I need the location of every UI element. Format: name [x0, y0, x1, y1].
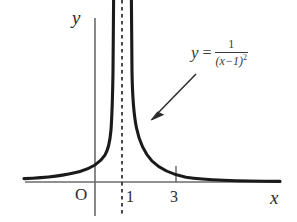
equation-annotation: y = 1 (x−1)2 [191, 38, 248, 67]
equation-left-hand-side: y [191, 43, 199, 63]
denominator-exponent: 2 [243, 53, 247, 62]
x-tick-label-3: 3 [170, 189, 178, 205]
equation-fraction: 1 (x−1)2 [215, 38, 248, 67]
origin-label: O [75, 186, 87, 203]
x-axis-label: x [270, 188, 278, 207]
fraction-numerator: 1 [225, 38, 237, 51]
annotation-arrow-line [157, 74, 197, 115]
fraction-denominator: (x−1)2 [215, 54, 248, 68]
y-axis-label: y [72, 8, 80, 27]
function-graph-figure: y x O 1 3 y = 1 (x−1)2 [0, 0, 297, 222]
equation-equals-sign: = [203, 44, 212, 62]
denominator-base: (x−1) [216, 54, 243, 68]
plot-canvas [0, 0, 297, 222]
curve-left-branch [24, 0, 114, 179]
annotation-arrow-head [151, 112, 163, 120]
curve-right-branch [131, 0, 280, 181]
x-tick-label-1: 1 [126, 189, 134, 205]
